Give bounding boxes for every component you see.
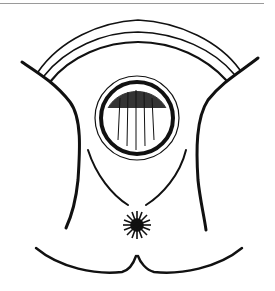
- left-funnel: [88, 150, 128, 205]
- right-edge: [197, 58, 258, 230]
- right-bottom-curve: [138, 248, 242, 273]
- right-funnel: [146, 150, 186, 205]
- middle-arc: [44, 32, 234, 76]
- radiating-mark: [123, 211, 151, 239]
- left-edge: [22, 62, 80, 228]
- illustration: [0, 0, 275, 291]
- circle-shading: [108, 90, 166, 150]
- left-bottom-curve: [36, 248, 136, 273]
- central-circle-outline: [95, 76, 179, 160]
